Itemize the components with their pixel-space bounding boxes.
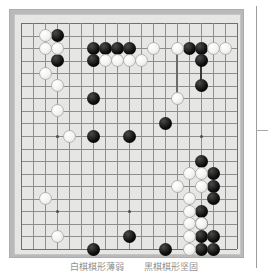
white-stone[interactable] bbox=[51, 104, 64, 117]
white-stone[interactable] bbox=[171, 180, 184, 193]
black-stone[interactable] bbox=[159, 117, 172, 130]
black-stone[interactable] bbox=[207, 243, 220, 256]
black-stone[interactable] bbox=[207, 192, 220, 205]
black-stone[interactable] bbox=[51, 29, 64, 42]
black-stone[interactable] bbox=[123, 130, 136, 143]
white-stone[interactable] bbox=[39, 192, 52, 205]
black-stone[interactable] bbox=[87, 130, 100, 143]
white-stone[interactable] bbox=[39, 67, 52, 80]
black-stone[interactable] bbox=[207, 230, 220, 243]
white-stone[interactable] bbox=[147, 42, 160, 55]
white-stone[interactable] bbox=[51, 79, 64, 92]
grid-line-vertical bbox=[213, 23, 214, 249]
white-stone[interactable] bbox=[135, 54, 148, 67]
white-stone[interactable] bbox=[171, 92, 184, 105]
white-stone[interactable] bbox=[195, 167, 208, 180]
grid-line-vertical bbox=[33, 23, 34, 249]
black-stone[interactable] bbox=[87, 54, 100, 67]
black-stone[interactable] bbox=[195, 243, 208, 256]
white-stone[interactable] bbox=[195, 180, 208, 193]
white-connection-marker bbox=[176, 48, 178, 98]
black-stone[interactable] bbox=[87, 243, 100, 256]
black-stone[interactable] bbox=[195, 42, 208, 55]
white-stone[interactable] bbox=[171, 42, 184, 55]
hoshi-point bbox=[200, 135, 203, 138]
white-stone[interactable] bbox=[183, 230, 196, 243]
go-board-surface[interactable] bbox=[14, 14, 241, 255]
black-stone[interactable] bbox=[195, 79, 208, 92]
black-stone[interactable] bbox=[195, 54, 208, 67]
white-stone[interactable] bbox=[111, 54, 124, 67]
white-stone[interactable] bbox=[183, 192, 196, 205]
black-stone[interactable] bbox=[123, 230, 136, 243]
grid-line-vertical bbox=[153, 23, 154, 249]
grid-line-vertical bbox=[81, 23, 82, 249]
white-stone[interactable] bbox=[183, 243, 196, 256]
black-stone[interactable] bbox=[51, 54, 64, 67]
page-margin-tick bbox=[256, 130, 268, 131]
white-stone[interactable] bbox=[183, 167, 196, 180]
black-stone[interactable] bbox=[99, 42, 112, 55]
white-stone[interactable] bbox=[219, 42, 232, 55]
caption-right-text: 黑棋棋形坚固 bbox=[144, 260, 198, 273]
go-board-figure: 白棋棋形薄弱 黑棋棋形坚固 bbox=[0, 0, 268, 276]
black-stone[interactable] bbox=[123, 42, 136, 55]
white-stone[interactable] bbox=[183, 205, 196, 218]
go-board-grid[interactable] bbox=[21, 23, 237, 249]
white-stone[interactable] bbox=[183, 217, 196, 230]
hoshi-point bbox=[56, 135, 59, 138]
grid-line-vertical bbox=[225, 23, 226, 249]
white-stone[interactable] bbox=[99, 54, 112, 67]
grid-line-vertical bbox=[45, 23, 46, 249]
page-margin-rule bbox=[256, 6, 257, 268]
black-stone[interactable] bbox=[207, 167, 220, 180]
white-stone[interactable] bbox=[63, 130, 76, 143]
black-stone[interactable] bbox=[207, 180, 220, 193]
caption-left-text: 白棋棋形薄弱 bbox=[70, 260, 124, 273]
black-stone[interactable] bbox=[159, 243, 172, 256]
white-stone[interactable] bbox=[39, 42, 52, 55]
white-stone[interactable] bbox=[123, 54, 136, 67]
white-stone[interactable] bbox=[51, 230, 64, 243]
grid-line-vertical bbox=[237, 23, 238, 249]
black-stone[interactable] bbox=[195, 230, 208, 243]
black-stone[interactable] bbox=[195, 205, 208, 218]
hoshi-point bbox=[56, 210, 59, 213]
grid-line-vertical bbox=[165, 23, 166, 249]
white-stone[interactable] bbox=[195, 217, 208, 230]
black-stone[interactable] bbox=[111, 42, 124, 55]
black-stone[interactable] bbox=[195, 155, 208, 168]
black-stone[interactable] bbox=[183, 42, 196, 55]
black-stone[interactable] bbox=[87, 42, 100, 55]
white-stone[interactable] bbox=[51, 42, 64, 55]
black-stone[interactable] bbox=[87, 92, 100, 105]
figure-caption: 白棋棋形薄弱 黑棋棋形坚固 bbox=[0, 260, 268, 273]
hoshi-point bbox=[128, 210, 131, 213]
go-board-frame bbox=[9, 9, 244, 258]
grid-line-vertical bbox=[21, 23, 22, 249]
white-stone[interactable] bbox=[207, 42, 220, 55]
white-stone[interactable] bbox=[39, 29, 52, 42]
